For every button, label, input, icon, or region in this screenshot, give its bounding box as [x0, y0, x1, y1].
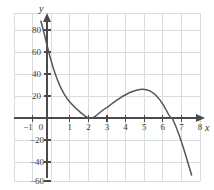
y-tick-label-20: 20 [32, 91, 42, 101]
x-tick-label-1: 1 [68, 122, 73, 132]
y-tick-label-80: 80 [32, 25, 42, 35]
x-tick-label-6: 6 [161, 122, 166, 132]
y-axis-label: y [38, 3, 44, 14]
y-tick-label-neg40: −40 [30, 157, 45, 167]
y-tick-label-40: 40 [32, 69, 42, 79]
x-tick-label-4: 4 [123, 122, 128, 132]
x-tick-label-neg1: −1 [23, 122, 33, 132]
x-axis-label: x [204, 122, 210, 133]
x-tick-label-2: 2 [86, 122, 91, 132]
x-tick-label-5: 5 [142, 122, 147, 132]
x-tick-label-0: 0 [39, 122, 44, 132]
y-tick-label-neg60: −60 [30, 176, 45, 186]
x-tick-label-7: 7 [179, 122, 184, 132]
y-tick-label-neg20: −20 [30, 135, 45, 145]
x-tick-label-3: 3 [105, 122, 110, 132]
x-tick-label-8: 8 [198, 122, 203, 132]
cubic-function-plot: −1 0 1 2 3 4 5 6 7 8 80 60 40 20 −20 −40… [0, 0, 214, 190]
y-tick-label-60: 60 [32, 47, 42, 57]
chart-figure: −1 0 1 2 3 4 5 6 7 8 80 60 40 20 −20 −40… [0, 0, 214, 190]
